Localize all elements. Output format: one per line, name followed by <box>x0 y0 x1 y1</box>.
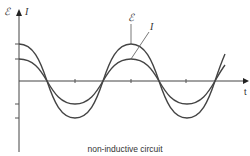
y-axis-current-label: I <box>25 7 28 17</box>
y-axis-arrow-icon <box>16 9 22 16</box>
x-axis-label: t <box>244 88 247 97</box>
x-axis-arrow-icon <box>243 78 249 84</box>
waveform-diagram <box>0 0 250 156</box>
voltage-curve-label: ℰ <box>128 13 134 23</box>
y-ticks <box>15 44 19 118</box>
current-curve-label: I <box>150 22 153 32</box>
current-leader-line <box>131 32 149 59</box>
caption: non-inductive circuit <box>0 144 250 154</box>
y-axis-voltage-label: ℰ <box>4 7 10 17</box>
